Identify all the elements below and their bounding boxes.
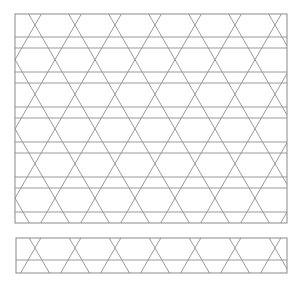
diagonal-line-down-right [29, 238, 49, 273]
diagonal-line-up-right [281, 14, 301, 223]
diagonal-line-up-right [21, 238, 41, 273]
diagonal-line-down-right [269, 238, 289, 273]
diagonal-line-up-right [81, 14, 202, 223]
diagonal-line-down-right [109, 238, 129, 273]
diagonal-line-up-right [0, 14, 81, 223]
diagonal-line-down-right [149, 14, 270, 223]
diagonal-line-up-right [141, 238, 161, 273]
diagonal-line-up-right [261, 238, 281, 273]
diagonal-line-down-right [29, 14, 150, 223]
diagonal-line-up-right [121, 14, 242, 223]
pattern-lines [0, 14, 301, 223]
main-pattern-panel [0, 14, 301, 223]
diagonal-line-up-right [61, 238, 81, 273]
diagonal-line-down-right [189, 238, 209, 273]
diagonal-line-up-right [1, 14, 122, 223]
diagonal-line-up-right [161, 14, 282, 223]
diagonal-line-up-right [0, 238, 1, 273]
triangle-pattern-figure [0, 0, 301, 284]
diagonal-line-up-right [221, 238, 241, 273]
diagonal-line-down-right [109, 14, 230, 223]
strip-pattern-panel [0, 238, 301, 273]
diagonal-line-up-right [41, 14, 162, 223]
diagonal-line-down-right [229, 14, 301, 223]
diagonal-line-down-right [69, 238, 89, 273]
diagonal-line-down-right [269, 14, 301, 223]
diagonal-line-down-right [69, 14, 190, 223]
panel-border [15, 14, 287, 223]
diagonal-line-down-right [0, 14, 109, 223]
diagonal-line-down-right [229, 238, 249, 273]
diagonal-line-up-right [241, 14, 301, 223]
pattern-lines [0, 238, 301, 273]
diagonal-line-down-right [189, 14, 301, 223]
diagonal-line-up-right [101, 238, 121, 273]
diagonal-line-up-right [0, 14, 1, 223]
diagonal-line-down-right [149, 238, 169, 273]
diagonal-line-down-right [0, 238, 9, 273]
diagonal-line-up-right [181, 238, 201, 273]
